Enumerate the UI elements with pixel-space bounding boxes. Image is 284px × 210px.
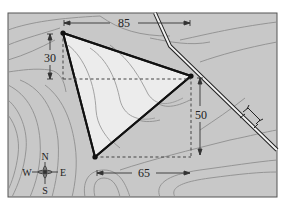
compass-west: W — [22, 167, 32, 178]
vertex-b — [188, 73, 193, 78]
vertex-a — [60, 30, 65, 35]
dimension-right-label: 50 — [195, 108, 207, 122]
dimension-left-label: 30 — [44, 51, 56, 65]
compass-north: N — [41, 151, 48, 162]
compass-east: E — [60, 167, 66, 178]
vertex-c — [92, 154, 97, 159]
dimension-bottom-label: 65 — [138, 166, 150, 180]
compass-south: S — [42, 185, 48, 196]
dimension-top-label: 85 — [118, 16, 130, 30]
topographic-map-diagram: 85 30 50 65 N S W E — [0, 0, 284, 210]
